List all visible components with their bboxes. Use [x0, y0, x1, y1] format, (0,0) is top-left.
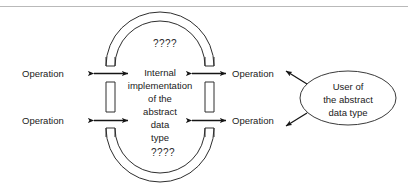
capsule-right-wall-middle: [205, 82, 214, 112]
operation-label-left-lower: Operation: [22, 115, 64, 126]
operation-label-right-upper: Operation: [232, 68, 274, 79]
user-arrow-to-upper-operation: [286, 71, 307, 84]
abstract-data-type-diagram: ???? ???? Internal implementation of the…: [0, 0, 408, 196]
diagram-canvas: ???? ???? Internal implementation of the…: [0, 0, 408, 196]
user-arrow-to-lower-operation: [286, 113, 307, 126]
user-bubble-line-2: the abstract: [323, 94, 373, 105]
hidden-marker-bottom: ????: [151, 147, 175, 158]
hidden-marker-top: ????: [153, 38, 177, 49]
operation-label-left-upper: Operation: [22, 68, 64, 79]
user-bubble-line-3: data type: [328, 107, 367, 118]
user-bubble-label: User of the abstract data type: [323, 81, 373, 118]
operation-label-right-lower: Operation: [232, 115, 274, 126]
capsule-left-wall-middle: [106, 82, 115, 112]
internal-impl-line-1: Internal: [144, 67, 176, 78]
internal-impl-line-2: implementation: [128, 80, 192, 91]
internal-impl-line-6: type: [151, 132, 169, 143]
capsule-left-stub-top: [106, 57, 115, 66]
internal-implementation-label: Internal implementation of the abstract …: [128, 67, 192, 143]
internal-impl-line-5: data: [151, 119, 170, 130]
internal-impl-line-3: of the: [148, 93, 172, 104]
internal-impl-line-4: abstract: [143, 106, 177, 117]
capsule-left-stub-bottom: [106, 128, 115, 137]
capsule-right-stub-bottom: [205, 128, 214, 137]
capsule-right-stub-top: [205, 57, 214, 66]
user-bubble-line-1: User of: [333, 81, 364, 92]
